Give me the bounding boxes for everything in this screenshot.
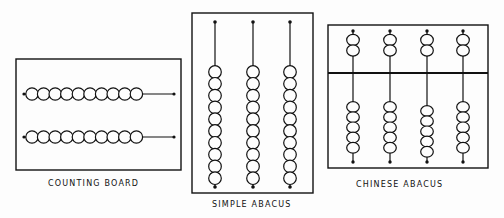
rod-end <box>351 29 354 32</box>
bead <box>284 148 297 161</box>
lower-bead <box>457 132 470 143</box>
lower-bead <box>347 112 360 123</box>
bead <box>284 137 297 150</box>
bead <box>37 88 49 100</box>
rod-end <box>288 20 292 24</box>
bead <box>284 172 297 185</box>
rod-end <box>461 29 464 32</box>
lower-bead <box>421 136 434 147</box>
rod-end <box>251 185 255 189</box>
bead <box>209 89 222 102</box>
wire-end <box>22 135 25 138</box>
wire-end <box>172 135 175 138</box>
upper-bead <box>421 45 434 56</box>
wire-end <box>172 92 175 95</box>
rod-end <box>461 160 464 163</box>
lower-bead <box>384 102 397 113</box>
rod-end <box>388 160 391 163</box>
lower-bead <box>347 132 360 143</box>
bead <box>284 78 297 91</box>
rod-end <box>351 160 354 163</box>
lower-bead <box>347 122 360 133</box>
upper-bead <box>347 45 360 56</box>
lower-bead <box>347 142 360 153</box>
rod-end <box>213 20 217 24</box>
rod-end <box>288 185 292 189</box>
lower-bead <box>421 126 434 137</box>
lower-bead <box>347 102 360 113</box>
lower-bead <box>421 116 434 127</box>
bead <box>247 125 260 138</box>
bead <box>209 78 222 91</box>
frame <box>16 59 181 170</box>
lower-bead <box>457 122 470 133</box>
upper-bead <box>347 34 360 45</box>
simple-abacus <box>192 13 313 193</box>
chinese-abacus-label: CHINESE ABACUS <box>356 180 443 189</box>
bead <box>95 88 107 100</box>
bead <box>247 148 260 161</box>
lower-bead <box>384 132 397 143</box>
bead <box>130 131 142 143</box>
lower-bead <box>457 102 470 113</box>
upper-bead <box>421 34 434 45</box>
wire-end <box>22 92 25 95</box>
bead <box>95 131 107 143</box>
lower-bead <box>421 106 434 117</box>
bead <box>107 131 119 143</box>
bead <box>247 137 260 150</box>
bead <box>26 131 38 143</box>
rod-end <box>251 20 255 24</box>
bead <box>209 160 222 173</box>
lower-bead <box>384 112 397 123</box>
counting-board <box>16 59 181 170</box>
bead <box>72 88 84 100</box>
bead <box>119 131 131 143</box>
bead <box>49 131 61 143</box>
bead <box>209 113 222 126</box>
bead <box>247 101 260 114</box>
bead <box>84 88 96 100</box>
bead <box>72 131 84 143</box>
bead <box>107 88 119 100</box>
bead <box>247 160 260 173</box>
simple-abacus-label: SIMPLE ABACUS <box>212 200 292 209</box>
lower-bead <box>384 122 397 133</box>
rod-end <box>425 29 428 32</box>
bead <box>130 88 142 100</box>
upper-bead <box>457 34 470 45</box>
lower-bead <box>421 146 434 157</box>
rod-end <box>425 160 428 163</box>
rod-end <box>213 185 217 189</box>
bead <box>26 88 38 100</box>
bead <box>247 113 260 126</box>
bead <box>284 125 297 138</box>
bead <box>284 66 297 79</box>
bead <box>247 66 260 79</box>
bead <box>84 131 96 143</box>
bead <box>209 172 222 185</box>
bead <box>247 172 260 185</box>
bead <box>209 66 222 79</box>
bead <box>37 131 49 143</box>
bead <box>284 113 297 126</box>
lower-bead <box>384 142 397 153</box>
lower-bead <box>457 142 470 153</box>
rod-end <box>388 29 391 32</box>
bead <box>284 89 297 102</box>
bead <box>209 101 222 114</box>
upper-bead <box>384 34 397 45</box>
upper-bead <box>457 45 470 56</box>
bead <box>209 137 222 150</box>
bead <box>119 88 131 100</box>
bead <box>284 160 297 173</box>
upper-bead <box>384 45 397 56</box>
bead <box>247 78 260 91</box>
bead <box>49 88 61 100</box>
chinese-abacus <box>328 25 488 168</box>
bead <box>61 131 73 143</box>
counting-board-label: COUNTING BOARD <box>48 179 139 188</box>
lower-bead <box>457 112 470 123</box>
bead <box>61 88 73 100</box>
bead <box>209 148 222 161</box>
